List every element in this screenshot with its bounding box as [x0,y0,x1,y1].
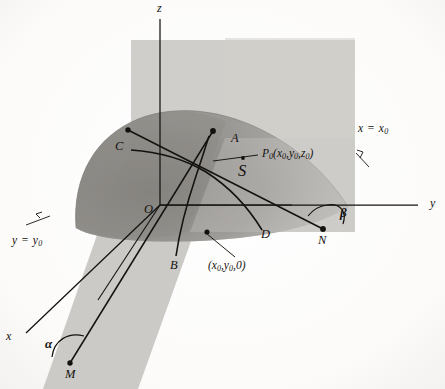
origin-label: O [144,203,153,216]
point-A-label: A [231,132,239,145]
point-D-label: D [261,228,270,241]
point-M-dot [67,360,72,365]
plane-x-value-sub: 0 [384,127,389,136]
point-P0-label: P0(x0,y0,z0) [262,148,313,161]
z-axis-label: z [157,2,162,14]
plane-y-eq: = [21,234,29,246]
figure-canvas: z y x O A B C D M N P0(x0,y0,z0) S (x0,y… [0,0,445,389]
plane-y-label: y = y0 [12,235,43,248]
point-A-dot [210,128,216,134]
point-C-label: C [115,140,123,153]
point-C-dot [125,127,130,132]
angle-alpha-label: α [45,337,52,350]
y-axis-label: y [430,197,435,209]
plane-y-var: y [12,234,18,246]
foot-point-label: (x0,y0,0) [208,260,245,273]
plane-x-eq: = [367,122,375,134]
x-axis-label: x [6,330,11,342]
p0-close: ) [309,147,313,159]
diagram-svg [0,0,445,389]
point-N-label: N [318,234,326,247]
plane-y-value-sub: 0 [38,239,43,248]
point-M-label: M [65,368,75,381]
foot-close: ) [242,259,246,271]
foot-point-dot [204,229,209,234]
point-N-dot [320,226,326,232]
angle-beta-label: β [340,206,347,219]
point-B-label: B [170,259,178,272]
surface-label-S: S [238,163,246,180]
plane-x-var: x [358,122,364,134]
p0-base: P [262,147,269,159]
point-P0-dot [241,156,245,160]
plane-x-label: x = x0 [358,123,389,136]
